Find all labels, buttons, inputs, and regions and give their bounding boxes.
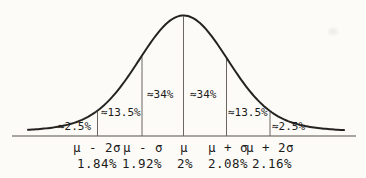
x-tick-mu: μ — [180, 141, 188, 154]
x-value-mu-minus-2sigma: 1.84% — [77, 157, 117, 170]
x-tick-mu-minus-sigma: μ - σ — [123, 141, 163, 154]
x-value-mu-plus-2sigma: 2.16% — [252, 157, 292, 170]
area-label-right-34: ≈34% — [190, 89, 217, 101]
bell-curve-figure: ≈2.5% ≈13.5% ≈34% ≈34% ≈13.5% ≈2.5% μ - … — [0, 0, 366, 178]
area-label-right-13-5: ≈13.5% — [228, 107, 268, 119]
area-label-left-34: ≈34% — [147, 89, 174, 101]
bell-curve — [28, 16, 344, 131]
x-value-mu: 2% — [177, 157, 193, 170]
x-tick-mu-plus-2sigma: μ + 2σ — [246, 141, 294, 154]
x-tick-mu-minus-2sigma: μ - 2σ — [73, 141, 121, 154]
x-value-mu-plus-sigma: 2.08% — [208, 157, 248, 170]
x-value-mu-minus-sigma: 1.92% — [122, 157, 162, 170]
area-label-left-tail: ≈2.5% — [58, 121, 91, 133]
x-tick-mu-plus-sigma: μ + σ — [208, 141, 248, 154]
area-label-left-13-5: ≈13.5% — [101, 107, 141, 119]
area-label-right-tail: ≈2.5% — [272, 121, 305, 133]
